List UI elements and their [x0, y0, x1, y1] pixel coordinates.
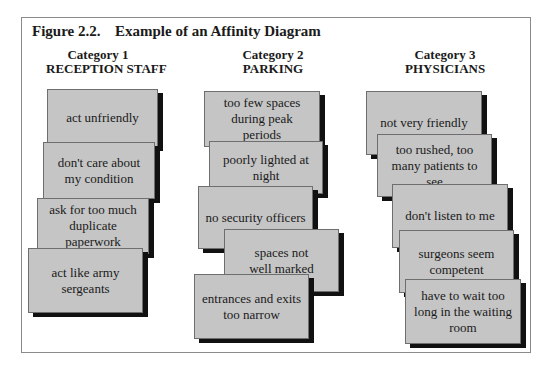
card-parking-1: too few spaces during peak periods	[204, 91, 320, 147]
category-3-header: Category 3 PHYSICIANS	[405, 48, 485, 76]
category-label: Category 1	[67, 47, 128, 62]
category-name: RECEPTION STAFF	[46, 62, 150, 76]
figure-number: Figure 2.2.	[32, 23, 115, 40]
card-reception-2: don't care about my condition	[43, 142, 155, 199]
category-name: PARKING	[238, 62, 308, 76]
card-parking-5: entrances and exits too narrow	[194, 274, 309, 339]
category-2-header: Category 2 PARKING	[238, 48, 308, 76]
card-physicians-5: have to wait too long in the waiting roo…	[405, 279, 521, 344]
figure-caption: Example of an Affinity Diagram	[115, 23, 321, 39]
category-label: Category 3	[414, 47, 475, 62]
card-reception-1: act unfriendly	[47, 89, 158, 147]
card-reception-4: act like army sergeants	[28, 248, 143, 313]
figure-title: Figure 2.2.Example of an Affinity Diagra…	[32, 23, 321, 40]
category-label: Category 2	[242, 47, 303, 62]
card-reception-3: ask for too much duplicate paperwork	[37, 198, 149, 254]
category-1-header: Category 1 RECEPTION STAFF	[46, 48, 150, 76]
category-name: PHYSICIANS	[405, 62, 485, 76]
